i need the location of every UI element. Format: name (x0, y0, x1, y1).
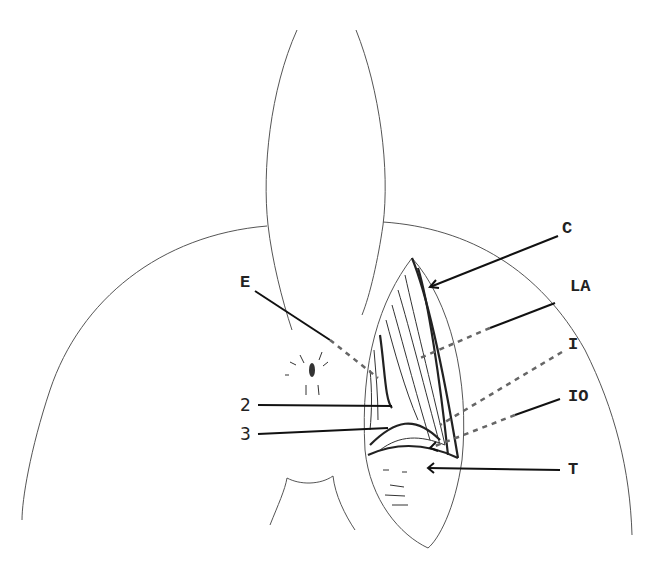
incision (364, 258, 464, 548)
label-c: C (562, 219, 572, 238)
label-i: I (568, 335, 578, 354)
label-e: E (240, 273, 250, 292)
leaders (255, 236, 562, 473)
label-t: T (568, 460, 578, 479)
anatomical-diagram: C LA I IO T E 2 3 (0, 0, 651, 565)
label-2: 2 (240, 395, 251, 415)
label-3: 3 (240, 424, 251, 444)
label-la: LA (570, 277, 591, 296)
label-io: IO (568, 387, 588, 406)
body-outline (22, 30, 632, 535)
pubic-tuft (285, 352, 328, 395)
labels: C LA I IO T E 2 3 (240, 219, 591, 479)
